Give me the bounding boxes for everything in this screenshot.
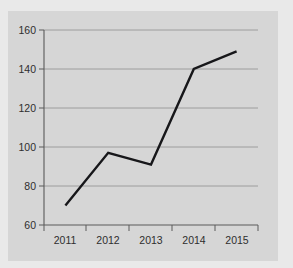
chart-background (8, 11, 278, 261)
chart-panel: 160 140 120 100 80 60 2011 2012 2013 201… (8, 11, 278, 261)
y-axis-tick-label: 120 (18, 102, 36, 114)
x-axis-tick-label: 2011 (54, 234, 77, 246)
y-axis-tick-label: 160 (18, 24, 36, 36)
x-axis-tick-label: 2015 (225, 234, 249, 246)
x-axis-tick-label: 2012 (96, 234, 120, 246)
y-axis-tick-label: 140 (18, 63, 36, 75)
y-axis-tick-label: 60 (24, 219, 36, 231)
line-chart-figure: 160 140 120 100 80 60 2011 2012 2013 201… (8, 11, 278, 261)
y-axis-tick-label: 100 (18, 141, 36, 153)
screenshot-root: 160 140 120 100 80 60 2011 2012 2013 201… (0, 0, 293, 268)
x-axis-tick-label: 2013 (139, 234, 163, 246)
y-axis-tick-label: 80 (24, 180, 36, 192)
x-axis-tick-label: 2014 (182, 234, 206, 246)
chart-svg: 160 140 120 100 80 60 2011 2012 2013 201… (8, 11, 278, 261)
